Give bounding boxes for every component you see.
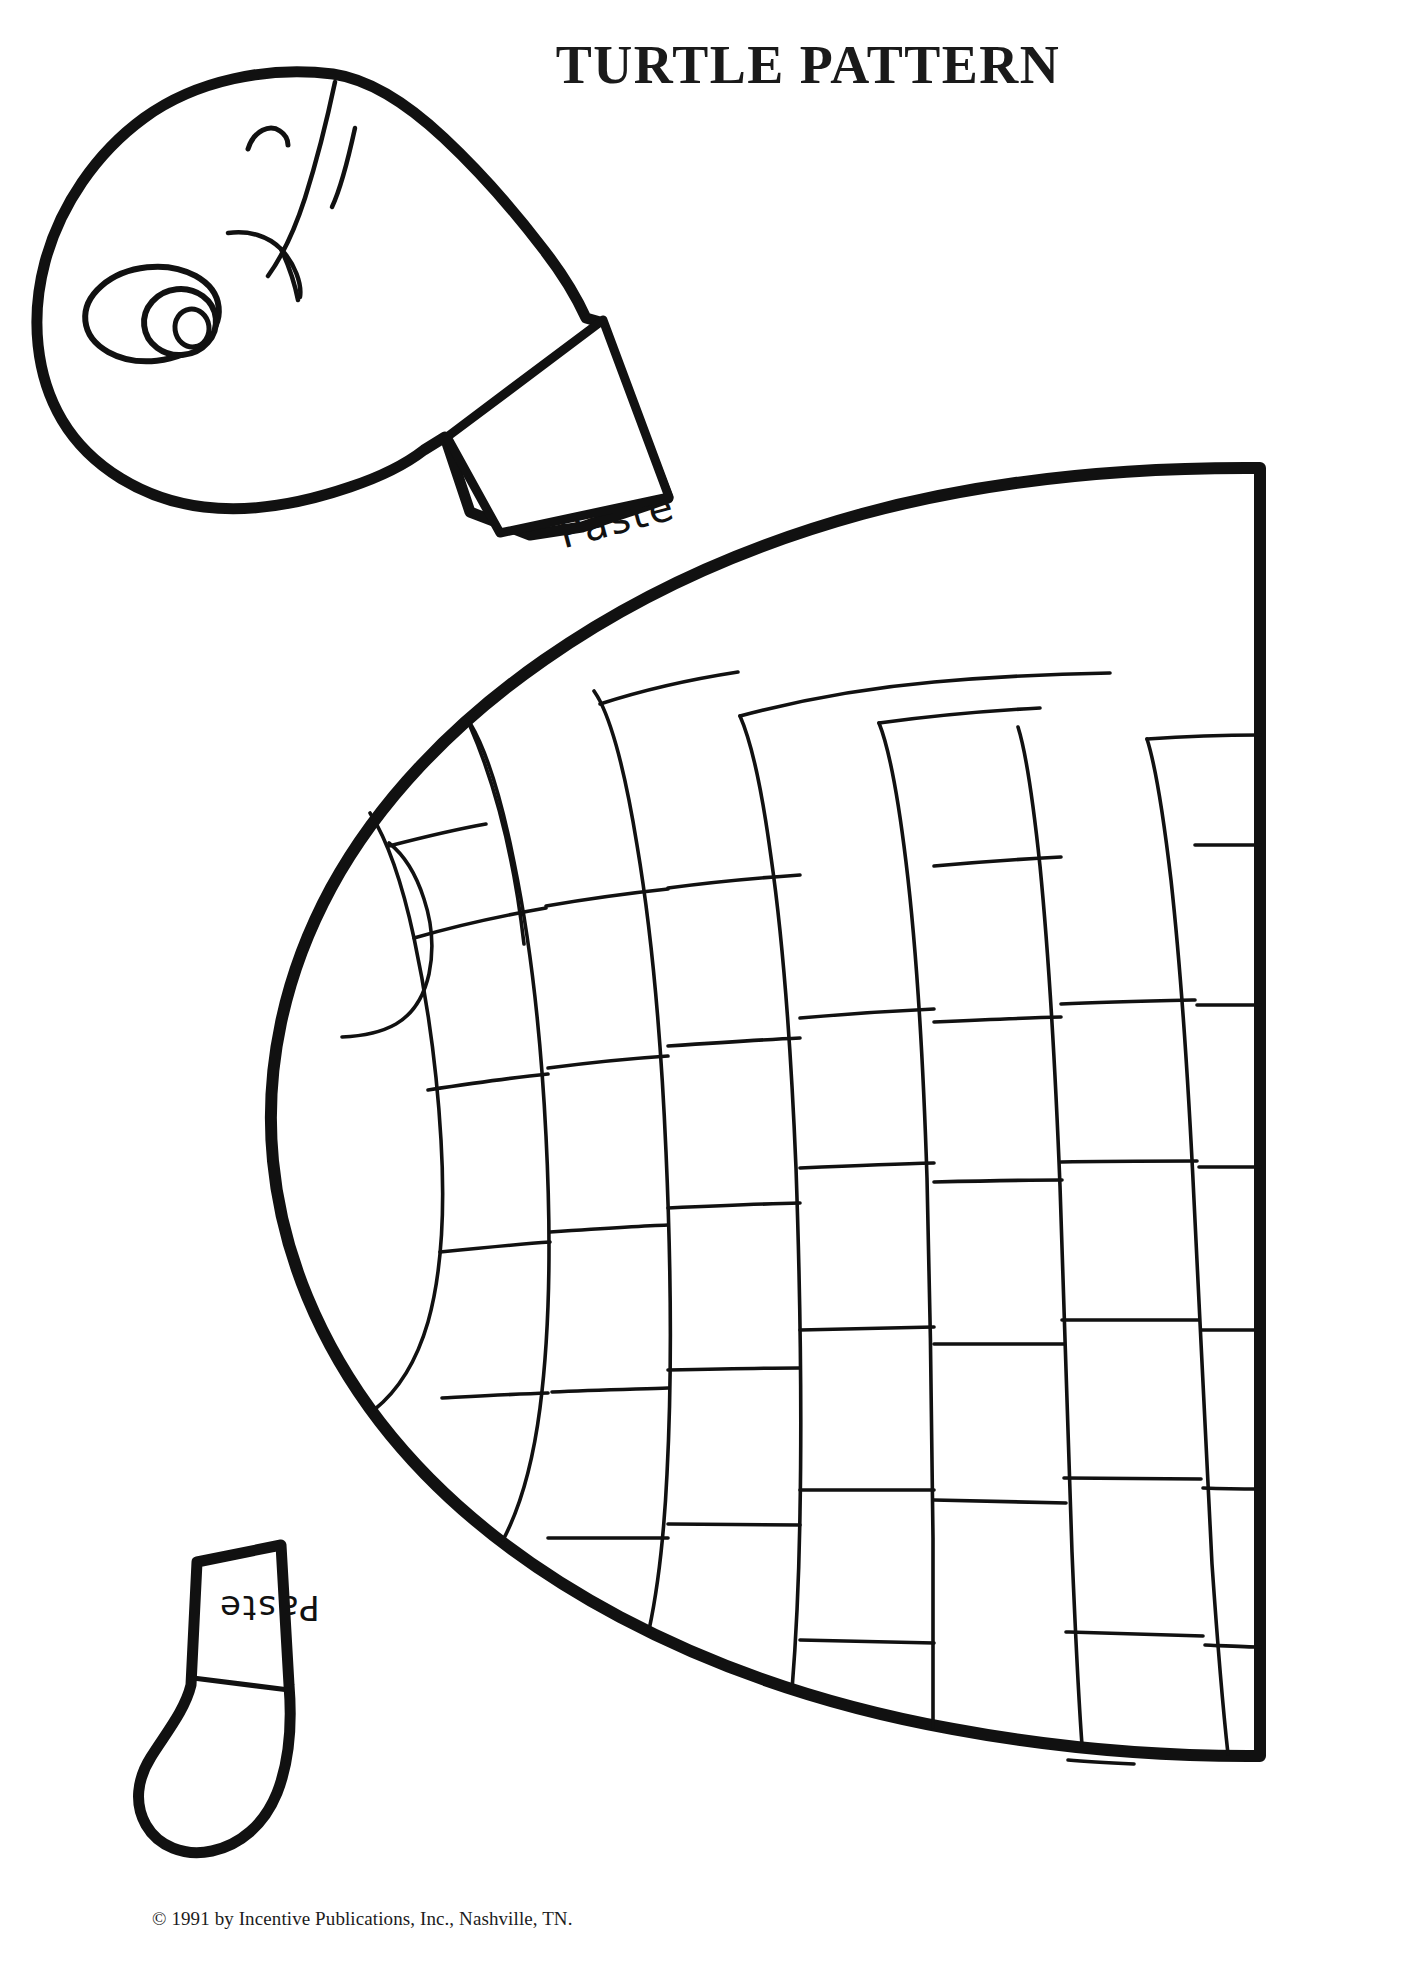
turtle-shell-group [271,468,1260,1764]
shell-outline [271,468,1260,1756]
pattern-artwork [0,0,1416,1971]
shell-row-line-27 [668,1368,800,1370]
shell-row-line-37 [1203,1488,1260,1489]
shell-row-line-30 [1064,1478,1201,1479]
eye-pupil [173,307,212,349]
pattern-page: TURTLE PATTERN [0,0,1416,1971]
shell-row-line-22 [934,1180,1062,1182]
tail-paste-tab-label: Paste [218,1588,320,1628]
shell-row-line-33 [668,1524,800,1525]
copyright-notice: © 1991 by Incentive Publications, Inc., … [152,1908,573,1930]
shell-row-line-16 [1061,1161,1197,1162]
shell-row-line-38 [1068,1760,1134,1764]
shell-row-line-39 [1205,1645,1260,1647]
